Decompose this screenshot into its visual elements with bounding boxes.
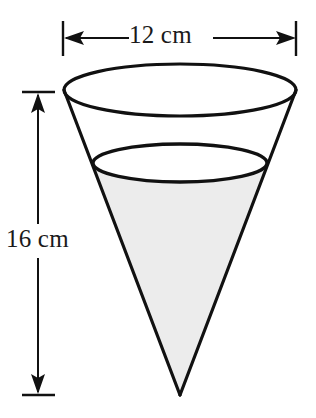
cone-figure: 12 cm 16 cm [0, 0, 316, 418]
liquid-body-fill [93, 163, 267, 395]
width-dimension-label: 12 cm [129, 22, 192, 47]
cone-diagram-svg [0, 0, 316, 418]
cone-top-rim-ellipse [64, 64, 296, 116]
height-dimension-label: 16 cm [6, 226, 69, 251]
